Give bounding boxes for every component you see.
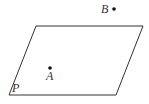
plane-label: P xyxy=(11,81,20,95)
diagram: P A B xyxy=(0,0,149,104)
point-b-dot xyxy=(112,7,116,11)
plane-p xyxy=(9,26,143,95)
point-b-label: B xyxy=(101,2,109,16)
diagram-canvas: P A B xyxy=(0,0,149,104)
point-a-label: A xyxy=(45,69,54,83)
